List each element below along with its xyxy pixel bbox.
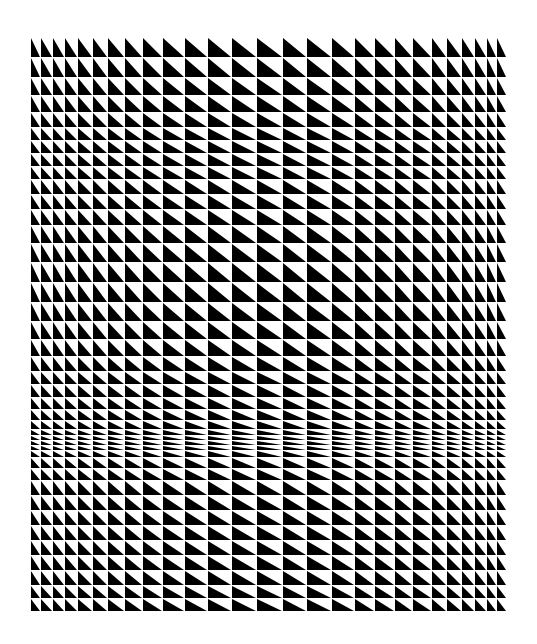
- triangle-grid-artwork: [0, 0, 537, 644]
